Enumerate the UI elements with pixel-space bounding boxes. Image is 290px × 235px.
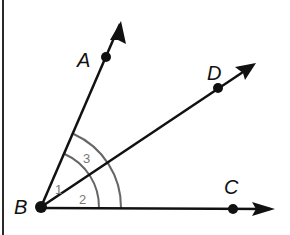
label-C: C	[224, 176, 239, 198]
point-D	[213, 83, 223, 93]
angle-label-2: 2	[79, 192, 86, 207]
angle-diagram: A D C B 1 2 3	[0, 0, 290, 235]
label-A: A	[76, 49, 90, 71]
angle-label-1: 1	[55, 182, 62, 197]
arrow-D-icon	[235, 63, 256, 80]
point-B	[35, 201, 47, 213]
point-A	[101, 52, 111, 62]
label-D: D	[207, 62, 221, 84]
point-C	[228, 204, 238, 214]
angle-label-3: 3	[83, 151, 90, 166]
label-B: B	[14, 196, 27, 218]
diagram-frame: A D C B 1 2 3	[0, 0, 290, 235]
